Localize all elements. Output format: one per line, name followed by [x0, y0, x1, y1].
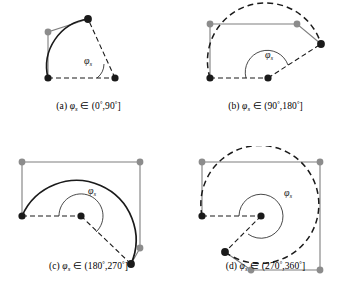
radius-end-d [225, 216, 261, 252]
gray-marker [45, 29, 52, 36]
angle-label-c: φs [88, 185, 97, 197]
gray-marker [207, 21, 214, 28]
caption-b-sub: s [247, 105, 250, 112]
gray-marker [137, 159, 144, 166]
degree-icon: ° [100, 100, 103, 107]
end-marker-d [221, 248, 229, 256]
angle-label-sub-b: s [270, 54, 273, 61]
caption-d-label: (d) [226, 261, 237, 271]
angle-label-sub-d: s [289, 192, 292, 199]
spiral-arc-c [22, 180, 136, 264]
caption-a-elem: ∈ [80, 101, 89, 111]
caption-b-close: ] [300, 101, 303, 111]
radius-end-a [88, 19, 115, 78]
radius-end-c [81, 216, 131, 264]
caption-c-sub: s [68, 265, 71, 272]
caption-d-sub: s [245, 265, 248, 272]
start-marker-d [198, 212, 205, 219]
caption-b-low: 90 [268, 101, 278, 111]
radius-end-b [268, 44, 321, 78]
degree-icon: ° [280, 260, 283, 267]
angle-label-sub-c: s [93, 190, 96, 197]
end-marker-a [84, 15, 92, 23]
angle-label-sub-a: s [89, 60, 92, 67]
caption-b: (b) φs ∈ (90°,180°] [177, 98, 354, 114]
bounding-polyline-a [48, 19, 88, 78]
caption-d-close: ] [302, 261, 305, 271]
caption-c-close: ] [125, 261, 128, 271]
caption-a: (a) φs ∈ (0°,90°] [0, 98, 177, 114]
caption-a-close: ] [117, 101, 120, 111]
panel-a: φs (a) φs ∈ (0°,90°] [0, 0, 177, 146]
caption-a-label: (a) [56, 101, 67, 111]
spiral-arc-a [47, 19, 88, 78]
panel-b-diagram: φs [177, 0, 354, 146]
gray-marker [317, 159, 324, 166]
caption-c: (c) φs ∈ (180°,270°] [0, 258, 177, 274]
degree-icon: ° [102, 260, 105, 267]
angle-label-a: φs [84, 55, 93, 67]
caption-c-label: (c) [49, 261, 60, 271]
gray-marker [294, 21, 301, 28]
caption-b-high: 180 [282, 101, 297, 111]
figure-container: φs (a) φs ∈ (0°,90°] [0, 0, 354, 292]
caption-d-low: 270 [265, 261, 280, 271]
gray-marker [19, 159, 26, 166]
spiral-arc-d [201, 146, 319, 263]
end-marker-b [317, 40, 325, 48]
panel-c: φs (c) φs ∈ (180°,270°] [0, 146, 177, 292]
caption-c-high: 270 [108, 261, 123, 271]
pivot-marker-b [264, 74, 271, 81]
panel-b: φs (b) φs ∈ (90°,180°] [177, 0, 354, 146]
panel-a-diagram: φs [0, 0, 177, 146]
caption-d: (d) φs ∈ (270°,360°] [177, 258, 354, 274]
panel-d: φs (d) φs ∈ (270°,360°] [177, 146, 354, 292]
start-marker-c [18, 212, 25, 219]
angle-arc-a [97, 64, 104, 78]
caption-c-elem: ∈ [73, 261, 82, 271]
pivot-marker-a [44, 74, 51, 81]
gray-marker [137, 245, 144, 252]
caption-d-elem: ∈ [250, 261, 259, 271]
gray-marker [199, 159, 206, 166]
spiral-arc-b [207, 3, 321, 78]
caption-b-label: (b) [228, 101, 239, 111]
caption-d-high: 360 [285, 261, 300, 271]
vertex-marker-a [111, 74, 118, 81]
start-marker-b [206, 74, 213, 81]
caption-c-low: 180 [88, 261, 103, 271]
pivot-marker-c [77, 212, 84, 219]
degree-icon: ° [277, 100, 280, 107]
caption-a-sub: s [75, 105, 78, 112]
angle-label-d: φs [284, 187, 293, 199]
caption-b-elem: ∈ [253, 101, 262, 111]
pivot-marker-d [257, 212, 264, 219]
caption-a-high: 90 [105, 101, 115, 111]
